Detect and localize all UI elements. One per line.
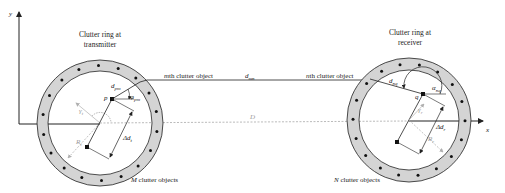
transmitter-caption-line1: Clutter ring at [79,30,122,39]
clutter-object-dot [450,155,453,158]
clutter-object-dot [117,67,120,70]
receiver-caption-line2: receiver [398,38,423,47]
clutter-object-dot [435,167,438,170]
gamma-r-label: γr [418,106,423,115]
clutter-object-dot [355,137,358,140]
d-nq-label: dnq [389,77,398,86]
y-axis: y [8,10,19,124]
transmitter-ring: Clutter ring at transmitter γt Rt p Δdt … [37,30,178,186]
clutter-object-dot [134,77,137,80]
receiver-ring: Clutter ring at receiver dnq αnq q γr Rr… [333,28,471,184]
x-axis-label: x [485,126,490,134]
clutter-object-dot [77,68,80,71]
clutter-object-dot [399,63,402,66]
delta-d-t-label: Δdt [122,134,133,143]
nth-object-label: nth clutter object [306,72,353,80]
clutter-object-dot [365,82,368,85]
clutter-object-dot [397,174,400,177]
clutter-object-dot [464,119,467,122]
clutter-object-dot [80,176,83,179]
clutter-object-dot [148,91,151,94]
clutter-object-dot [120,175,123,178]
d-mn-label: dmn [245,72,255,81]
delta-d-r-label: Δdr [435,123,446,132]
clutter-object-dot [149,149,152,152]
clutter-object-dot [137,165,140,168]
R-t-label: Rt [75,138,82,147]
clutter-object-dot [100,179,103,182]
clutter-ring-diagram: y x D Clutter ring at transmitter γt Rt … [0,0,505,193]
clutter-object-dot [355,99,358,102]
clutter-object-dot [155,130,158,133]
receiver-count-label: N clutter objects [333,176,380,184]
clutter-object-dot [97,64,100,67]
clutter-object-dot [48,94,51,97]
clutter-object-dot [379,167,382,170]
gamma-t-label: γt [79,107,84,116]
receiver-caption-line1: Clutter ring at [389,28,432,37]
y-axis-label: y [8,10,13,18]
transmitter-count-label: M clutter objects [130,176,178,184]
clutter-object-dot [155,110,158,113]
transmitter-caption-line2: transmitter [84,40,117,49]
point-q-label: q [415,93,419,101]
clutter-object-dot [63,167,66,170]
baseline-D-label: D [249,113,255,121]
mn-link: mth clutter object dmn nth clutter objec… [140,72,373,82]
mth-object-label: mth clutter object [164,72,213,80]
clutter-object-dot [50,152,53,155]
clutter-object-dot [364,154,367,157]
clutter-object-dot [460,138,463,141]
x-axis: x D [19,113,490,134]
d-pm-label: dpm [111,82,121,91]
point-p-label: p [103,94,108,102]
clutter-object-dot [42,113,45,116]
clutter-object-dot [460,100,463,103]
clutter-object-dot [417,174,420,177]
phi-pm-label: φpm [130,93,140,102]
clutter-object-dot [42,133,45,136]
alpha-nq-label: αnq [432,84,441,93]
clutter-object-dot [380,70,383,73]
clutter-object-dot [451,83,454,86]
clutter-object-dot [418,64,421,67]
clutter-object-dot [60,78,63,81]
clutter-object-dot [352,118,355,121]
